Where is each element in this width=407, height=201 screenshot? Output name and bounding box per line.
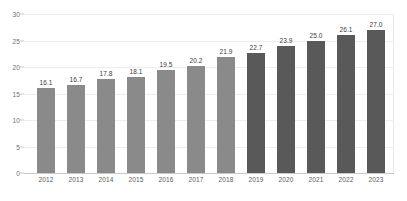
x-axis-tick-label: 2023 [361,176,391,183]
bar-value-label: 18.1 [121,68,151,75]
bar[interactable] [157,70,175,173]
x-axis-tick-label: 2012 [31,176,61,183]
axis-baseline [24,173,394,174]
bar-value-label: 17.8 [91,70,121,77]
bar-value-label: 27.0 [361,21,391,28]
bar[interactable] [337,35,355,173]
bar-value-label: 23.9 [271,37,301,44]
y-axis-tick-label: 10 [4,117,20,124]
bar[interactable] [127,77,145,173]
bar[interactable] [217,57,235,173]
y-axis-tick-label: 15 [4,90,20,97]
bar-item[interactable]: 25.0 [301,14,331,173]
bar[interactable] [367,30,385,173]
x-axis-tick-label: 2014 [91,176,121,183]
bar-value-label: 21.9 [211,48,241,55]
bar[interactable] [307,41,325,174]
bar-value-label: 26.1 [331,26,361,33]
bar-item[interactable]: 19.5 [151,14,181,173]
bar-item[interactable]: 18.1 [121,14,151,173]
bar[interactable] [187,66,205,173]
x-axis-tick-label: 2018 [211,176,241,183]
bar[interactable] [247,53,265,173]
bar-series: 16.116.717.818.119.520.221.922.723.925.0… [24,14,394,173]
bar-item[interactable]: 16.7 [61,14,91,173]
bar[interactable] [277,46,295,173]
x-axis-tick-label: 2021 [301,176,331,183]
bar[interactable] [97,79,115,173]
y-axis-tick-label: 5 [4,143,20,150]
x-axis-tick-label: 2016 [151,176,181,183]
bar-item[interactable]: 27.0 [361,14,391,173]
bar-value-label: 16.1 [31,79,61,86]
x-axis: 2012201320142015201620172018201920202021… [24,176,394,190]
bar[interactable] [67,85,85,174]
bar-item[interactable]: 26.1 [331,14,361,173]
y-axis-tick-label: 0 [4,170,20,177]
bar-item[interactable]: 23.9 [271,14,301,173]
bar-item[interactable]: 22.7 [241,14,271,173]
x-axis-tick-label: 2013 [61,176,91,183]
bar-value-label: 16.7 [61,76,91,83]
x-axis-tick-label: 2017 [181,176,211,183]
bar-value-label: 20.2 [181,57,211,64]
bar-value-label: 22.7 [241,44,271,51]
bar-item[interactable]: 17.8 [91,14,121,173]
y-axis-tick-label: 25 [4,37,20,44]
bar-item[interactable]: 16.1 [31,14,61,173]
y-axis-tick-label: 20 [4,64,20,71]
bar[interactable] [37,88,55,173]
x-axis-tick-label: 2020 [271,176,301,183]
bar-value-label: 25.0 [301,32,331,39]
x-axis-tick-label: 2022 [331,176,361,183]
bar-item[interactable]: 20.2 [181,14,211,173]
bar-item[interactable]: 21.9 [211,14,241,173]
y-axis-tick-label: 30 [4,11,20,18]
bar-chart: 051015202530 16.116.717.818.119.520.221.… [0,0,407,201]
bar-value-label: 19.5 [151,61,181,68]
x-axis-tick-label: 2019 [241,176,271,183]
x-axis-tick-label: 2015 [121,176,151,183]
